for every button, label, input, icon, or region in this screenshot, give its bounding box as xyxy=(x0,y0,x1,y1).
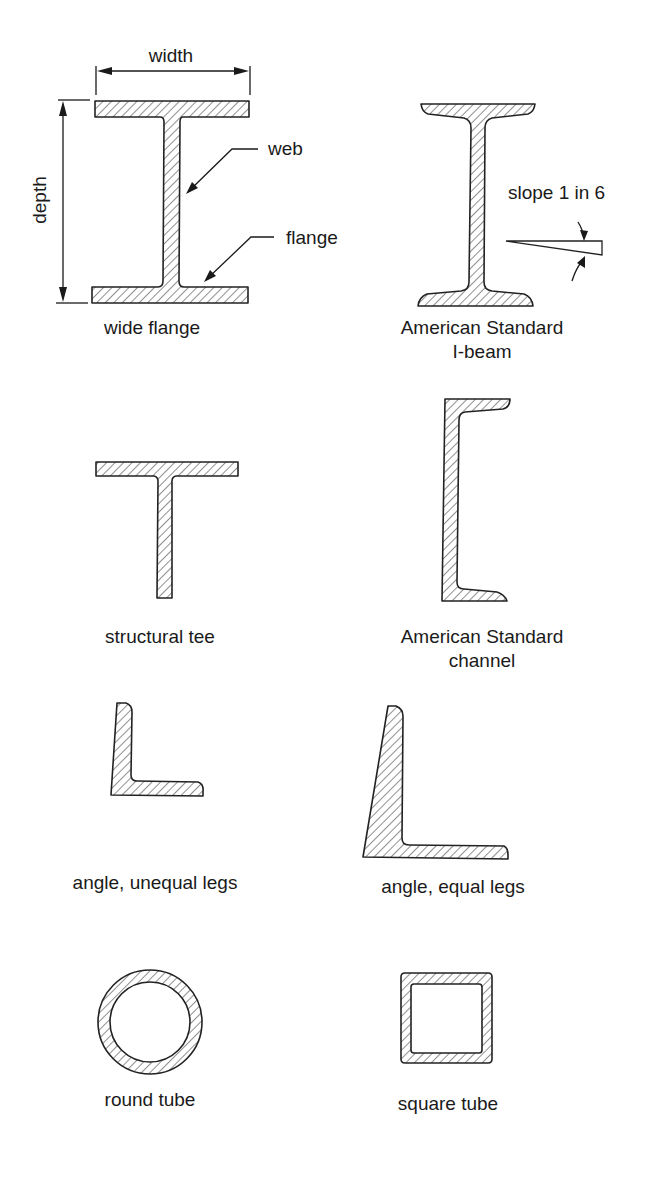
square-tube-caption: square tube xyxy=(398,1093,498,1114)
slope-indicator: slope 1 in 6 xyxy=(506,182,605,281)
web-label: web xyxy=(267,138,303,159)
angle-equal-shape: angle, equal legs xyxy=(363,706,525,897)
square-tube-shape: square tube xyxy=(398,973,498,1114)
angle-equal-section xyxy=(363,706,508,859)
i-beam-section xyxy=(418,104,535,306)
channel-shape: American Standard channel xyxy=(401,399,564,671)
round-tube-caption: round tube xyxy=(105,1089,196,1110)
wide-flange-caption: wide flange xyxy=(103,317,200,338)
structural-shapes-diagram: width depth web flange wide flange xyxy=(0,0,646,1178)
depth-label: depth xyxy=(29,176,50,224)
structural-tee-caption: structural tee xyxy=(105,626,215,647)
width-dimension: width xyxy=(96,45,250,95)
i-beam-shape: slope 1 in 6 American Standard I-beam xyxy=(401,104,606,362)
web-callout: web xyxy=(186,138,303,194)
channel-section xyxy=(442,399,510,601)
i-beam-caption-line2: I-beam xyxy=(452,341,511,362)
round-tube-shape: round tube xyxy=(98,970,202,1110)
square-tube-section xyxy=(401,973,492,1063)
flange-label: flange xyxy=(286,227,338,248)
round-tube-section xyxy=(98,970,202,1074)
channel-caption-line2: channel xyxy=(449,650,516,671)
channel-caption-line1: American Standard xyxy=(401,626,564,647)
depth-dimension: depth xyxy=(29,100,90,303)
angle-unequal-caption: angle, unequal legs xyxy=(73,872,238,893)
wide-flange-section xyxy=(92,101,249,303)
angle-unequal-shape: angle, unequal legs xyxy=(73,703,238,893)
wide-flange-shape: width depth web flange wide flange xyxy=(29,45,338,338)
angle-equal-caption: angle, equal legs xyxy=(381,876,525,897)
slope-label: slope 1 in 6 xyxy=(508,182,605,203)
structural-tee-shape: structural tee xyxy=(96,462,238,647)
width-label: width xyxy=(148,45,193,66)
structural-tee-section xyxy=(96,462,238,598)
flange-callout: flange xyxy=(204,227,338,282)
angle-unequal-section xyxy=(111,703,203,796)
i-beam-caption-line1: American Standard xyxy=(401,317,564,338)
